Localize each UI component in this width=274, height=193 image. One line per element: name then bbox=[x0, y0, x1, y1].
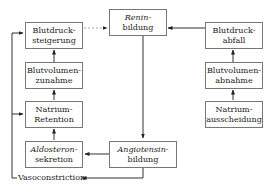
node-na-excretion-line1: Natrium- bbox=[216, 105, 253, 115]
node-na-retention-line2: Retention bbox=[34, 115, 74, 125]
node-bv-decrease-line1: Blutvolumen- bbox=[207, 66, 261, 76]
node-bp-drop-line1: Blutdruck- bbox=[213, 26, 256, 36]
node-renin-bildung: Renin- bildung bbox=[109, 9, 167, 36]
node-blutvolumenabnahme: Blutvolumen- abnahme bbox=[205, 62, 263, 89]
node-angiotensin-bildung: Angiotensin- bildung bbox=[109, 141, 177, 168]
node-na-retention-line1: Natrium- bbox=[36, 105, 73, 115]
node-blutdrucksteigerung: Blutdruck- steigerung bbox=[25, 22, 83, 49]
node-angiotensin-line1: Angiotensin- bbox=[117, 145, 168, 155]
node-natriumausscheidung: Natrium- ausscheidung bbox=[205, 101, 263, 128]
node-na-excretion-line2: ausscheidung bbox=[206, 115, 262, 125]
node-bv-increase-line2: zunahme bbox=[36, 76, 73, 86]
node-blutvolumenzunahme: Blutvolumen- zunahme bbox=[25, 62, 83, 89]
node-bv-decrease-line2: abnahme bbox=[215, 76, 252, 86]
node-bp-drop-line2: abfall bbox=[223, 36, 246, 46]
node-blutdruckabfall: Blutdruck- abfall bbox=[205, 22, 263, 49]
node-aldosterone-line1: Aldosteron- bbox=[31, 145, 78, 155]
vasoconstriction-label: Vasoconstriction bbox=[18, 173, 85, 183]
node-renin-line2: bildung bbox=[123, 23, 154, 33]
node-angiotensin-line2: bildung bbox=[128, 155, 159, 165]
node-aldosteronsekretion: Aldosteron- sekretion bbox=[25, 141, 83, 168]
node-natrium-retention: Natrium- Retention bbox=[25, 101, 83, 128]
node-aldosterone-line2: sekretion bbox=[35, 155, 73, 165]
node-bp-increase-line1: Blutdruck- bbox=[33, 26, 76, 36]
node-bp-increase-line2: steigerung bbox=[32, 36, 76, 46]
node-bv-increase-line1: Blutvolumen- bbox=[27, 66, 81, 76]
node-renin-line1: Renin- bbox=[125, 13, 151, 23]
